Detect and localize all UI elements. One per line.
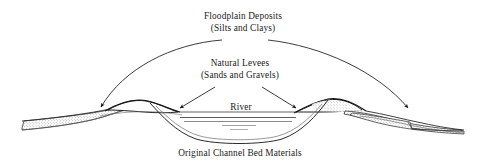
label-floodplain-deposits-line1: Floodplain Deposits bbox=[204, 11, 282, 21]
levee-arrow-left bbox=[180, 87, 215, 108]
labels-group: Floodplain Deposits (Silts and Clays) Na… bbox=[178, 11, 302, 158]
figure-canvas: Floodplain Deposits (Silts and Clays) Na… bbox=[0, 0, 478, 162]
levee-arrow-right bbox=[262, 87, 296, 108]
floodplain-arrow-right bbox=[268, 40, 408, 108]
label-floodplain-deposits-line2: (Silts and Clays) bbox=[211, 23, 276, 34]
label-original-channel-bed-materials: Original Channel Bed Materials bbox=[178, 148, 302, 158]
label-river: River bbox=[230, 102, 252, 112]
label-natural-levees-line1: Natural Levees bbox=[211, 58, 270, 68]
cross-section-diagram: Floodplain Deposits (Silts and Clays) Na… bbox=[0, 0, 478, 162]
label-natural-levees-line2: (Sands and Gravels) bbox=[201, 70, 279, 81]
